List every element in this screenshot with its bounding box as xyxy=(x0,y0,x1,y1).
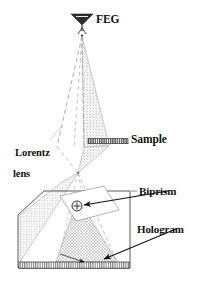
upper-beam-cone xyxy=(57,36,109,147)
lorentz-lens-label: Lorentz lens xyxy=(5,137,50,201)
lorentz-lens-label-line1: Lorentz xyxy=(15,147,50,158)
sample-holder xyxy=(88,139,128,144)
converging-ray-left xyxy=(57,147,78,173)
feg-emission-tip xyxy=(81,34,83,36)
beam-ray-left-outer xyxy=(57,36,82,147)
sample-label: Sample xyxy=(131,134,167,146)
feg-label: FEG xyxy=(96,14,119,26)
hologram-label: Hologram xyxy=(137,224,184,235)
hologram-tem-schematic-figure: FEG Sample Lorentz lens Biprism Hologram xyxy=(0,0,199,284)
lorentz-lens-label-line2: lens xyxy=(5,169,50,180)
hologram-recording-plane xyxy=(19,262,129,268)
feg-wedge-icon xyxy=(71,14,93,25)
feg-source xyxy=(71,14,93,36)
hologram-strip xyxy=(19,262,129,268)
biprism-label: Biprism xyxy=(139,186,176,197)
sample-bar xyxy=(88,139,128,144)
